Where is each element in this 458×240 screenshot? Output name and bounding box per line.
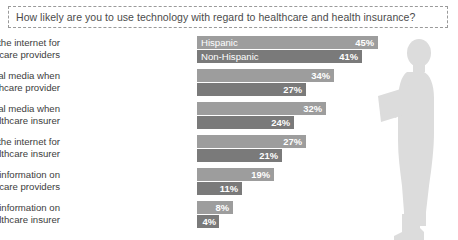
bar-row: 11%: [197, 182, 242, 195]
bar-row: 32%: [197, 102, 326, 115]
bar-value: 11%: [220, 182, 238, 195]
bar-value: 21%: [259, 149, 278, 162]
bar-value: 4%: [202, 215, 216, 228]
bar-value: 41%: [339, 50, 358, 63]
chart-container: How likely are you to use technology wit…: [0, 0, 458, 240]
category-label: Be influenced by social media when choos…: [0, 103, 60, 126]
legend-label-hispanic: Hispanic: [201, 36, 238, 49]
bar-row: Hispanic 45%: [197, 36, 378, 49]
bar-value: 19%: [251, 168, 270, 181]
bar-row: 27%: [197, 83, 306, 96]
legend-label-non-hispanic: Non-Hispanic: [201, 50, 259, 63]
bar-row: 8%: [197, 201, 233, 214]
chart-title-box: How likely are you to use technology wit…: [8, 6, 448, 28]
category-label: Search the internet for healthcare insur…: [0, 136, 60, 159]
category-label: Search the internet for healthcare provi…: [0, 37, 60, 60]
bar-row: 27%: [197, 135, 306, 148]
bar-value: 32%: [303, 102, 322, 115]
bar-row: 21%: [197, 149, 282, 162]
category-label: Use social media to find information on …: [0, 202, 60, 225]
bar-value: 24%: [271, 116, 290, 129]
bar-value: 27%: [283, 83, 302, 96]
plot-area: Search the internet for healthcare provi…: [0, 36, 458, 240]
bar-row: Non-Hispanic 41%: [197, 50, 362, 63]
category-label: Be influenced by social media when choos…: [0, 70, 60, 93]
bar-row: 34%: [197, 69, 334, 82]
category-label: Use social media to find information on …: [0, 169, 60, 192]
bar-value: 8%: [215, 201, 229, 214]
bar-row: 24%: [197, 116, 294, 129]
bar-row: 4%: [197, 215, 219, 228]
bar-row: 19%: [197, 168, 274, 181]
bar-value: 45%: [355, 36, 374, 49]
bar-value: 34%: [311, 69, 330, 82]
page-title: How likely are you to use technology wit…: [16, 11, 415, 23]
bar-value: 27%: [283, 135, 302, 148]
